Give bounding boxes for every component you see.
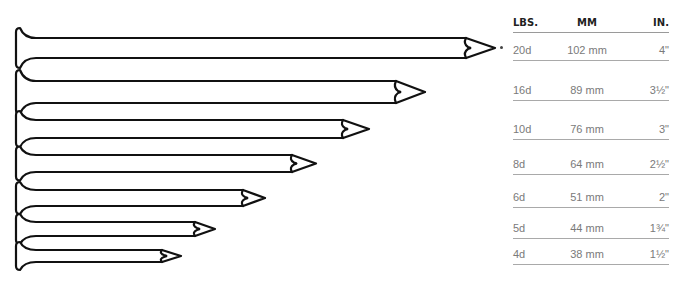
nail-6d [16, 182, 265, 214]
cell-lbs: 6d [513, 191, 525, 203]
nail-8d [16, 147, 316, 181]
table-header: LBS. MM IN. [513, 12, 669, 33]
table-row: 5d 44 mm 1¾" [513, 218, 669, 239]
table-row: 4d 38 mm 1½" [513, 244, 669, 265]
table-row: 10d 76 mm 3" [513, 119, 669, 140]
table-row: 16d 89 mm 3½" [513, 80, 669, 101]
cell-in: 3½" [650, 84, 669, 96]
nail-16d [16, 70, 425, 114]
cell-lbs: 5d [513, 222, 525, 234]
cell-mm: 76 mm [570, 123, 604, 135]
table-row: 8d 64 mm 2½" [513, 154, 669, 175]
cell-lbs: 20d [513, 44, 531, 56]
nail-5d [16, 214, 215, 244]
cell-in: 3" [659, 123, 669, 135]
cell-in: 2½" [650, 158, 669, 170]
header-lbs: LBS. [513, 17, 538, 28]
cell-lbs: 16d [513, 84, 531, 96]
table-row: 6d 51 mm 2" [513, 187, 669, 208]
cell-mm: 44 mm [570, 222, 604, 234]
cell-mm: 64 mm [570, 158, 604, 170]
header-mm: MM [577, 17, 597, 28]
cell-lbs: 8d [513, 158, 525, 170]
cell-in: 2" [659, 191, 669, 203]
nail-4d [16, 242, 181, 270]
table-row: 20d 102 mm 4" [513, 40, 669, 61]
cell-mm: 38 mm [570, 248, 604, 260]
cell-mm: 89 mm [570, 84, 604, 96]
bullet-marker [500, 46, 503, 49]
cell-mm: 102 mm [567, 44, 607, 56]
cell-in: 1¾" [650, 222, 669, 234]
nail-10d [16, 111, 369, 147]
cell-lbs: 4d [513, 248, 525, 260]
nail-20d [16, 28, 495, 68]
cell-in: 4" [659, 44, 669, 56]
header-in: IN. [653, 17, 669, 28]
cell-in: 1½" [650, 248, 669, 260]
cell-mm: 51 mm [570, 191, 604, 203]
cell-lbs: 10d [513, 123, 531, 135]
